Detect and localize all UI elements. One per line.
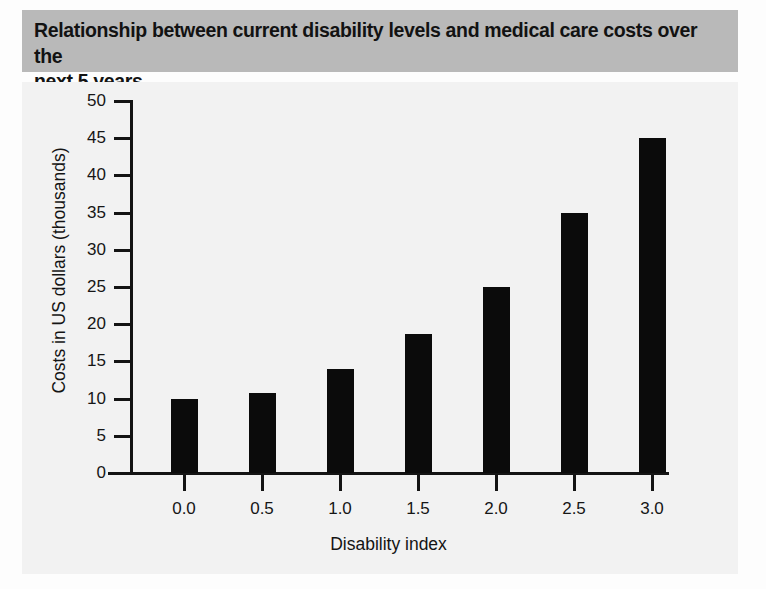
y-axis-tick [114,435,131,438]
plot-panel: 05101520253035404550 0.00.51.01.52.02.53… [22,82,738,574]
x-axis-tick [339,474,342,491]
y-axis-tick-label: 45 [66,129,106,146]
y-axis-tick [114,174,131,177]
x-axis-tick-label: 2.5 [544,500,604,517]
bar [171,399,198,473]
plot-area: 05101520253035404550 0.00.51.01.52.02.53… [22,82,738,574]
y-axis-tick-label: 20 [66,315,106,332]
y-axis-tick [114,398,131,401]
x-axis-tick [417,474,420,491]
y-axis-tick [114,137,131,140]
x-axis-tick-label: 2.0 [466,500,526,517]
y-axis-tick [114,100,131,103]
y-axis-tick-label: 40 [66,166,106,183]
y-axis-tick [114,249,131,252]
bar [483,287,510,473]
y-axis-tick-label: 0 [66,464,106,481]
y-axis-tick-label: 50 [66,92,106,109]
bar [327,369,354,473]
y-axis-tick-label: 30 [66,241,106,258]
x-axis-tick-label: 3.0 [622,500,682,517]
y-axis-tick [114,286,131,289]
y-axis-tick-label: 10 [66,390,106,407]
x-axis-tick [573,474,576,491]
y-axis-tick-label: 25 [66,278,106,295]
y-axis-tick-label: 15 [66,352,106,369]
x-axis-tick-label: 0.0 [154,500,214,517]
bar [639,138,666,473]
x-axis-tick-label: 0.5 [232,500,292,517]
y-axis-tick [114,360,131,363]
y-axis-title: Costs in US dollars (thousands) [49,106,70,436]
bar [249,393,276,473]
x-axis-title: Disability index [108,534,669,555]
y-axis-tick [114,212,131,215]
chart-title-band: Relationship between current disability … [22,10,738,72]
x-axis-tick [183,474,186,491]
bar [561,213,588,473]
x-axis-tick-label: 1.5 [388,500,448,517]
figure: Relationship between current disability … [0,0,766,589]
x-axis-tick [651,474,654,491]
x-axis-tick [495,474,498,491]
y-axis-tick [114,472,131,475]
y-axis-tick-label: 5 [66,427,106,444]
y-axis-tick [114,323,131,326]
y-axis-tick-label: 35 [66,204,106,221]
bar [405,334,432,473]
x-axis-tick-label: 1.0 [310,500,370,517]
x-axis-tick [261,474,264,491]
